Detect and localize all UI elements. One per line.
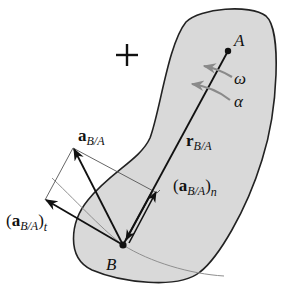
label-alpha: α (234, 92, 244, 111)
label-a-BA: aB/A (78, 126, 105, 148)
label-A: A (233, 31, 245, 50)
label-omega: ω (234, 69, 246, 88)
plus-sign-icon (116, 44, 138, 66)
point-A (225, 48, 231, 54)
label-a-BA-t: (aB/A)t (6, 211, 48, 234)
point-B (119, 241, 126, 248)
rigid-body-diagram: A B ω α rB/A aB/A (aB/A)t (aB/A)n (0, 0, 286, 292)
label-B: B (106, 255, 117, 274)
